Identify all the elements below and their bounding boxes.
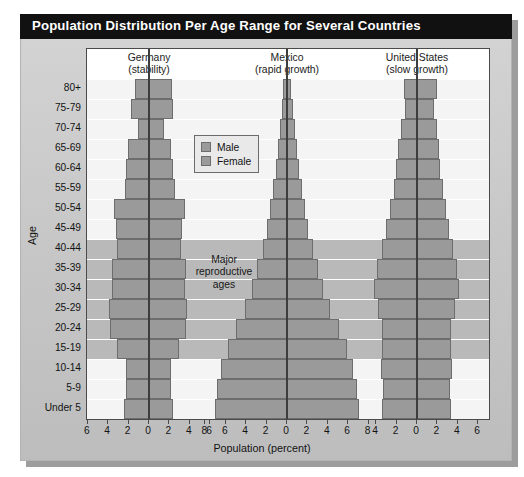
bar-female [417,119,437,139]
y-tick-label: 55-59 [0,182,81,193]
plot-inner: Germany(stability)Mexico(rapid growth)Un… [87,49,489,419]
bar-female [287,319,339,339]
bar-female [287,299,330,319]
x-tick-mark [436,420,437,424]
panel-country-name: Germany [86,52,219,64]
x-tick-mark [107,420,108,424]
bar-male [374,279,417,299]
bar-male [382,239,417,259]
bar-female [417,279,459,299]
legend-label: Female [217,156,251,167]
x-tick-mark [347,420,348,424]
bar-male [267,219,287,239]
bar-male [114,199,149,219]
bar-female [417,399,451,419]
y-tick-label: 75-79 [0,102,81,113]
legend: MaleFemale [194,135,259,173]
bar-female [149,199,185,219]
bar-female [287,359,353,379]
bar-male [404,79,417,99]
bar-male [126,379,149,399]
bar-female [417,159,440,179]
bar-male [382,319,417,339]
bar-male [124,399,150,419]
y-tick-label: 20-24 [0,322,81,333]
bar-male [398,139,417,159]
x-tick-mark [286,420,287,424]
repro-ages-annotation: Majorreproductiveages [179,254,269,291]
bar-female [287,399,359,419]
bar-male [378,299,417,319]
x-tick-mark [245,420,246,424]
x-tick-mark [375,420,376,424]
legend-item-female[interactable]: Female [201,154,251,168]
bar-female [417,379,450,399]
x-tick-mark [204,420,205,424]
x-tick-mark [168,420,169,424]
bar-male [125,179,149,199]
bar-male [394,179,417,199]
bar-male [117,239,149,259]
figure-root: Population Distribution Per Age Range fo… [0,0,524,477]
bar-male [228,339,287,359]
bar-female [287,159,299,179]
bar-male [217,379,287,399]
bar-female [417,319,451,339]
bar-female [417,299,455,319]
bar-male [126,159,149,179]
legend-item-male[interactable]: Male [201,140,251,154]
panel-title-germany: Germany(stability) [86,52,219,77]
bar-female [417,219,449,239]
x-axis-title: Population (percent) [0,442,524,454]
bar-female [149,379,171,399]
x-tick-mark [477,420,478,424]
y-tick-label: 80+ [0,82,81,93]
bar-female [287,139,297,159]
bar-female [417,199,446,219]
bar-female [417,99,434,119]
bar-female [149,79,172,99]
x-tick-mark [266,420,267,424]
annotation-line: Major [179,254,269,266]
bar-male [236,319,287,339]
y-tick-label: 10-14 [0,362,81,373]
bar-male [270,199,287,219]
bar-male [131,99,149,119]
bar-male [381,359,417,379]
bar-male [273,179,287,199]
x-tick-mark [225,420,226,424]
y-tick-label: 30-34 [0,282,81,293]
bar-male [116,219,149,239]
bar-female [149,139,171,159]
y-tick-label: 15-19 [0,342,81,353]
bar-male [112,259,149,279]
bar-female [287,99,293,119]
bar-female [149,359,171,379]
bar-male [386,219,417,239]
bar-female [417,179,443,199]
y-tick-label: 35-39 [0,262,81,273]
panel-center-axis [286,49,287,420]
legend-swatch-icon [201,156,211,166]
bar-female [149,159,173,179]
x-tick-label: 6 [465,425,489,436]
bar-male [276,159,287,179]
bar-male [110,319,149,339]
y-tick-label: 65-69 [0,142,81,153]
bar-female [287,339,347,359]
annotation-line: ages [179,279,269,291]
y-tick-label: 50-54 [0,202,81,213]
legend-label: Male [217,142,239,153]
x-tick-mark [457,420,458,424]
x-tick-mark [368,420,369,424]
bar-female [417,79,437,99]
y-tick-label: 5-9 [0,382,81,393]
x-tick-mark [87,420,88,424]
legend-swatch-icon [201,142,211,152]
bar-male [117,339,149,359]
x-tick-mark [327,420,328,424]
y-tick-label: 60-64 [0,162,81,173]
bar-male [245,299,287,319]
bar-male [383,379,417,399]
page-title: Population Distribution Per Age Range fo… [32,18,421,33]
